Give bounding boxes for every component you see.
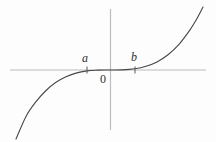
label-a: a bbox=[82, 51, 88, 65]
label-b: b bbox=[131, 50, 137, 64]
function-curve bbox=[16, 7, 203, 139]
plot-svg: a b 0 bbox=[0, 0, 216, 142]
origin-label: 0 bbox=[100, 72, 106, 86]
cubic-function-figure: a b 0 bbox=[0, 0, 216, 142]
